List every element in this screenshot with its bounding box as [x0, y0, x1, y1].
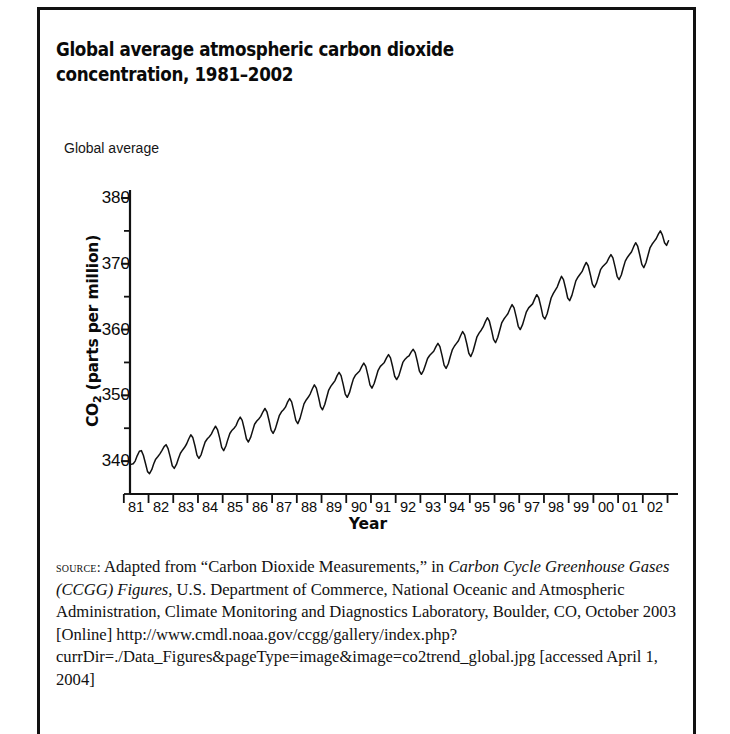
x-axis-tick-label: 83 [177, 498, 193, 516]
x-axis-tick-label: 90 [350, 498, 366, 516]
chart-plot-area: CO2 (parts per million) 340350360370380 … [40, 170, 696, 550]
x-axis-tick-label: 01 [622, 498, 638, 516]
chart-axes [121, 190, 678, 503]
x-axis-tick-label: 99 [573, 498, 589, 516]
co2-line-chart [40, 170, 696, 520]
source-label: source: [56, 559, 101, 575]
x-axis-title: Year [40, 515, 696, 533]
x-axis-tick-label: 93 [425, 498, 441, 516]
x-axis-tick-label: 95 [474, 498, 490, 516]
x-axis-tick-label: 86 [252, 498, 268, 516]
figure-frame: Global average atmospheric carbon dioxid… [37, 7, 696, 734]
axis-note-label: Global average [64, 140, 159, 156]
x-axis-tick-label: 81 [128, 498, 144, 516]
x-axis-tick-label: 82 [153, 498, 169, 516]
x-axis-tick-label: 85 [227, 498, 243, 516]
x-axis-tick-label: 84 [202, 498, 218, 516]
x-axis-tick-label: 98 [548, 498, 564, 516]
x-axis-tick-label: 89 [326, 498, 342, 516]
figure-inner: Global average atmospheric carbon dioxid… [40, 10, 693, 734]
x-axis-tick-label: 97 [523, 498, 539, 516]
x-axis-tick-label: 94 [449, 498, 465, 516]
x-axis-tick-label: 00 [598, 498, 614, 516]
source-note: source: Adapted from “Carbon Dioxide Mea… [56, 556, 682, 691]
x-axis-tick-label: 87 [276, 498, 292, 516]
source-text-pre: Adapted from “Carbon Dioxide Measurement… [101, 557, 448, 576]
chart-series-group [131, 231, 669, 474]
x-axis-tick-label: 88 [301, 498, 317, 516]
x-axis-tick-label: 02 [647, 498, 663, 516]
x-axis-tick-label: 91 [375, 498, 391, 516]
x-axis-tick-label: 96 [499, 498, 515, 516]
page-title: Global average atmospheric carbon dioxid… [56, 37, 589, 87]
x-axis-tick-label: 92 [400, 498, 416, 516]
